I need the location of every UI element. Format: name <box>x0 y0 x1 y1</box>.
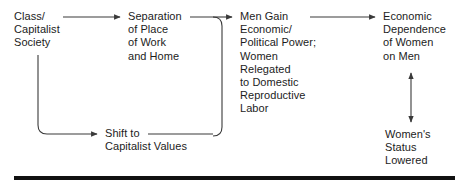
node-line: of Women <box>383 36 446 49</box>
node-line: to Domestic <box>240 76 316 89</box>
node-line: Dependence <box>383 23 446 36</box>
node-class-capitalist-society: Class/ Capitalist Society <box>14 10 60 50</box>
node-line: Men Gain <box>240 10 316 23</box>
node-line: Labor <box>240 102 316 115</box>
node-separation-of-place-of-work-and-home: Separation of Place of Work and Home <box>128 10 182 63</box>
node-line: Political Power; <box>240 36 316 49</box>
node-line: Society <box>14 36 60 49</box>
node-line: Women <box>240 50 316 63</box>
connector-class-to-shift <box>38 55 97 134</box>
node-line: Relegated <box>240 63 316 76</box>
node-line: Status <box>385 141 431 154</box>
node-line: Reproductive <box>240 89 316 102</box>
node-shift-to-capitalist-values: Shift to Capitalist Values <box>105 127 187 153</box>
node-line: Economic <box>383 10 446 23</box>
node-womens-status-lowered: Women's Status Lowered <box>385 128 431 168</box>
node-line: Lowered <box>385 154 431 167</box>
node-line: Economic/ <box>240 23 316 36</box>
connector-separation-to-men-gain <box>190 17 222 136</box>
node-line: Women's <box>385 128 431 141</box>
node-men-gain-economic-political-power: Men Gain Economic/ Political Power; Wome… <box>240 10 316 116</box>
node-line: Separation <box>128 10 182 23</box>
node-line: of Place <box>128 23 182 36</box>
node-line: of Work <box>128 36 182 49</box>
bottom-rule-divider <box>14 176 455 180</box>
node-line: Capitalist <box>14 23 60 36</box>
node-economic-dependence-of-women-on-men: Economic Dependence of Women on Men <box>383 10 446 63</box>
node-line: Capitalist Values <box>105 140 187 153</box>
node-line: and Home <box>128 50 182 63</box>
node-line: Class/ <box>14 10 60 23</box>
node-line: on Men <box>383 50 446 63</box>
flowchart-diagram: Class/ Capitalist Society Separation of … <box>0 0 468 186</box>
node-line: Shift to <box>105 127 187 140</box>
